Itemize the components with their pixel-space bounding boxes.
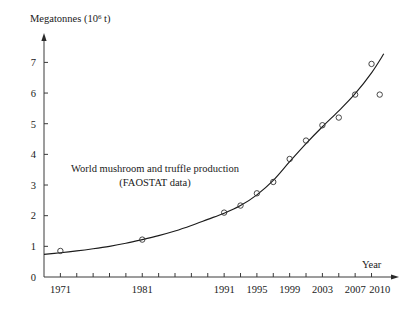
x-tick-label: 1991 xyxy=(214,284,235,295)
y-axis-label: Megatonnes (106 t) xyxy=(30,13,111,26)
y-tick-label: 7 xyxy=(31,57,36,68)
x-tick-label: 2003 xyxy=(312,284,333,295)
y-tick-label: 6 xyxy=(31,88,36,99)
data-point xyxy=(303,138,308,143)
data-point xyxy=(369,61,374,66)
y-tick-label: 1 xyxy=(31,241,36,252)
production-chart: Megatonnes (106 t) 01234567 197119811991… xyxy=(0,0,403,312)
x-tick-label: 1971 xyxy=(50,284,71,295)
x-tick-label: 1995 xyxy=(246,284,267,295)
y-tick-labels: 01234567 xyxy=(31,57,37,283)
y-tick-label: 4 xyxy=(31,149,37,160)
annotation-line: World mushroom and truffle production xyxy=(71,163,240,174)
data-point xyxy=(352,92,357,97)
annotation-line: (FAOSTAT data) xyxy=(119,177,191,189)
fitted-trend-curve xyxy=(44,54,384,255)
x-tick-label: 1999 xyxy=(279,284,300,295)
y-tick-label: 5 xyxy=(31,119,36,130)
x-tick-label: 2010 xyxy=(369,284,390,295)
x-axis-label: Year xyxy=(362,259,382,270)
x-tick-labels: 19711981199119951999200320072010 xyxy=(50,284,390,295)
data-point xyxy=(377,92,382,97)
y-tick-label: 0 xyxy=(31,272,36,283)
y-tick-label: 2 xyxy=(31,210,36,221)
x-tick-label: 2007 xyxy=(345,284,366,295)
y-tick-group xyxy=(44,62,48,246)
y-tick-label: 3 xyxy=(31,180,36,191)
x-tick-label: 1981 xyxy=(132,284,153,295)
x-tick-group xyxy=(60,273,371,277)
chart-annotation: World mushroom and truffle production(FA… xyxy=(71,163,240,189)
data-point xyxy=(336,115,341,120)
data-point-markers xyxy=(58,61,383,253)
chart-container: Megatonnes (106 t) 01234567 197119811991… xyxy=(0,0,403,312)
axes-group xyxy=(41,33,399,280)
